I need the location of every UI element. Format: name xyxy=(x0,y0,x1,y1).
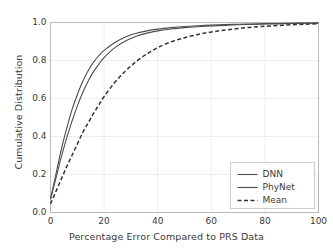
x-tick-40: 40 xyxy=(138,216,178,226)
legend-entry-mean: Mean xyxy=(263,195,288,205)
x-tick-60: 60 xyxy=(191,216,231,226)
y-tick-1.0: 1.0 xyxy=(13,17,47,27)
chart-figure: Percentage Error Compared to PRS Data Cu… xyxy=(0,0,333,251)
cdf-plot xyxy=(0,0,333,251)
x-axis-label: Percentage Error Compared to PRS Data xyxy=(0,231,333,242)
y-tick-0.8: 0.8 xyxy=(13,55,47,65)
legend-entry-dnn: DNN xyxy=(263,169,283,179)
y-tick-0.2: 0.2 xyxy=(13,169,47,179)
y-tick-0.4: 0.4 xyxy=(13,131,47,141)
x-tick-20: 20 xyxy=(84,216,124,226)
x-tick-100: 100 xyxy=(299,216,333,226)
x-tick-80: 80 xyxy=(245,216,285,226)
y-tick-0.0: 0.0 xyxy=(13,207,47,217)
y-tick-0.6: 0.6 xyxy=(13,93,47,103)
x-tick-0: 0 xyxy=(31,216,71,226)
y-axis-label: Cumulative Distribution xyxy=(13,17,24,207)
legend-entry-phynet: PhyNet xyxy=(263,182,295,192)
